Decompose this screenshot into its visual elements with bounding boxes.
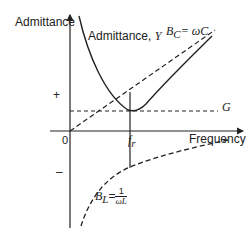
origin-label: 0	[62, 135, 68, 146]
plus-label: +	[53, 89, 60, 101]
bl-fraction: 1ωL	[115, 187, 126, 206]
inductive-label: BL=1ωL	[95, 187, 127, 206]
bc-subscript: C	[173, 28, 180, 40]
admittance-symbol: Y	[155, 29, 162, 43]
capacitive-label: BC= ωC	[166, 25, 208, 40]
capacitive-susceptance-line	[70, 30, 215, 131]
minus-label: –	[56, 166, 63, 178]
bl-equals: =	[108, 189, 115, 203]
resonance-label: fr	[128, 134, 136, 149]
fr-subscript: r	[131, 137, 135, 149]
inductive-susceptance-curve	[81, 140, 228, 226]
admittance-label-text: Admittance,	[88, 29, 155, 43]
bc-equation: = ωC	[181, 24, 209, 38]
bl-denominator: ωL	[115, 197, 126, 206]
x-axis-label: Frequency	[189, 133, 246, 145]
conductance-label: G	[222, 101, 231, 113]
admittance-curve-label: Admittance, Y	[88, 30, 161, 42]
y-axis-label: Admittance	[15, 16, 75, 28]
admittance-diagram: Admittance Admittance, Y BC= ωC + G 0 fr…	[0, 0, 251, 240]
